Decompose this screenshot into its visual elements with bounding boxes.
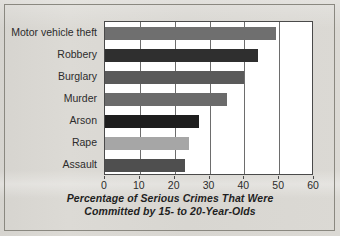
- x-tick-label: 50: [272, 179, 284, 191]
- bar: [105, 49, 258, 62]
- gridline-50: [279, 22, 280, 174]
- bar-row: [105, 22, 276, 44]
- chart-screenshot: Motor vehicle theftRobberyBurglaryMurder…: [0, 0, 340, 236]
- bar: [105, 93, 227, 106]
- y-axis-label: Rape: [72, 131, 97, 153]
- x-tick-label: 0: [101, 179, 107, 191]
- bar: [105, 71, 244, 84]
- bar: [105, 27, 276, 40]
- x-tick-label: 60: [307, 179, 319, 191]
- x-axis-ticks: 0102030405060: [104, 176, 313, 192]
- y-axis-label: Assault: [63, 153, 97, 175]
- bar-row: [105, 88, 227, 110]
- bar-row: [105, 44, 258, 66]
- x-tick-label: 20: [168, 179, 180, 191]
- bar-row: [105, 154, 185, 176]
- plot-area: [104, 21, 313, 175]
- bar: [105, 115, 199, 128]
- bar: [105, 159, 185, 172]
- y-axis-label: Murder: [64, 87, 97, 109]
- x-tick-label: 40: [237, 179, 249, 191]
- y-axis-label: Motor vehicle theft: [11, 21, 97, 43]
- x-axis-title: Percentage of Serious Crimes That WereCo…: [12, 192, 328, 218]
- x-axis-title-line: Committed by 15- to 20-Year-Olds: [12, 205, 328, 218]
- y-axis-label: Robbery: [57, 43, 97, 65]
- bar-row: [105, 110, 199, 132]
- x-axis-title-line: Percentage of Serious Crimes That Were: [12, 192, 328, 205]
- y-axis-label: Arson: [70, 109, 97, 131]
- y-axis-category-labels: Motor vehicle theftRobberyBurglaryMurder…: [4, 21, 101, 175]
- bar-row: [105, 66, 244, 88]
- bar: [105, 137, 189, 150]
- x-tick-label: 10: [133, 179, 145, 191]
- bar-row: [105, 132, 189, 154]
- x-tick-label: 30: [203, 179, 215, 191]
- y-axis-label: Burglary: [58, 65, 97, 87]
